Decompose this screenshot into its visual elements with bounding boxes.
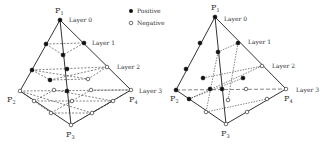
right-layer1-label: Layer 1 (248, 38, 271, 46)
left-positive-points (30, 18, 86, 93)
right-layer0-label: Layer 0 (224, 15, 247, 23)
legend: Positive Negative (129, 7, 165, 27)
right-layer3-label: Layer 3 (296, 86, 319, 94)
left-p4-label: P4 (129, 95, 138, 105)
right-layer3-dashed-line (176, 89, 286, 90)
left-p3-label: P3 (66, 130, 75, 140)
legend-negative-label: Negative (137, 19, 165, 27)
legend-positive-marker (129, 9, 133, 13)
right-layer2-label: Layer 2 (272, 62, 295, 70)
left-layer1-label: Layer 1 (92, 39, 115, 47)
left-layer3-label: Layer 3 (139, 87, 162, 95)
right-tetrahedron (174, 15, 288, 126)
left-p2-label: P2 (7, 95, 16, 105)
legend-negative-marker (129, 21, 133, 25)
left-dashed-lines (20, 43, 131, 125)
right-p2-label: P2 (170, 94, 179, 104)
left-layer0-label: Layer 0 (69, 16, 92, 24)
right-p4-label: P4 (284, 94, 293, 104)
left-layer2-label: Layer 2 (117, 63, 140, 71)
legend-positive-label: Positive (137, 7, 161, 14)
right-p1-label: P1 (211, 3, 220, 13)
left-tetrahedron (18, 18, 133, 127)
right-edges (176, 17, 286, 124)
left-p1-label: P1 (55, 6, 64, 16)
right-p3-label: P3 (221, 129, 230, 139)
tetrahedra-diagram: P1 P2 P3 P4 Layer 0 Layer 1 Layer 2 Laye… (0, 0, 333, 145)
